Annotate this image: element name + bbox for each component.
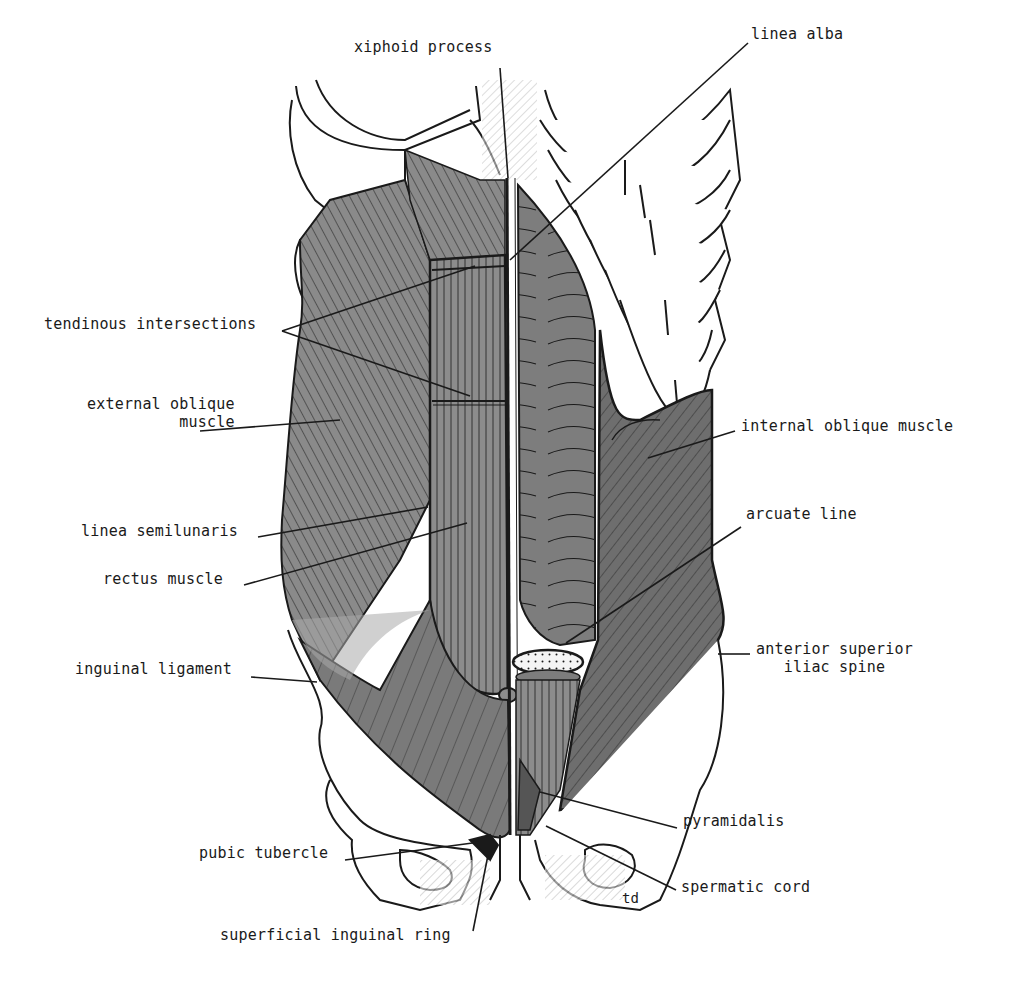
abdominal-wall-illustration: td: [0, 0, 1018, 995]
label-spermatic-cord: spermatic cord: [681, 878, 810, 896]
label-external-oblique-muscle: external oblique muscle: [87, 395, 235, 431]
xiphoid-area: [482, 80, 537, 180]
label-rectus-muscle: rectus muscle: [103, 570, 223, 588]
label-xiphoid-process: xiphoid process: [354, 38, 492, 56]
posterior-rectus-sheath: [518, 185, 595, 645]
label-linea-alba: linea alba: [751, 25, 843, 43]
label-internal-oblique-muscle: internal oblique muscle: [741, 417, 953, 435]
label-inguinal-ligament: inguinal ligament: [75, 660, 232, 678]
left-rectus-muscle: [430, 255, 508, 694]
label-anterior-superior-iliac-spine: anterior superior iliac spine: [756, 640, 913, 676]
artist-mark: td: [622, 890, 639, 906]
label-linea-semilunaris: linea semilunaris: [81, 522, 238, 540]
label-superficial-inguinal-ring: superficial inguinal ring: [220, 926, 451, 944]
label-pubic-tubercle: pubic tubercle: [199, 844, 328, 862]
label-arcuate-line: arcuate line: [746, 505, 857, 523]
external-oblique-region: [281, 180, 430, 680]
label-pyramidalis: pyramidalis: [683, 812, 785, 830]
label-tendinous-intersections: tendinous intersections: [44, 315, 256, 333]
